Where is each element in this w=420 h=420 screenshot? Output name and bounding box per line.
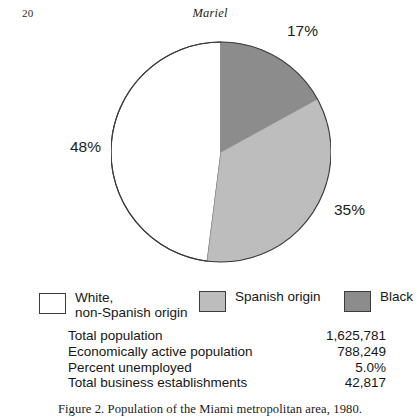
stats-value-percent-unemployed: 5.0% (355, 360, 386, 376)
pie-value-label-white-non-spanish: 48% (70, 138, 101, 156)
stats-label-total-population: Total population (68, 328, 163, 344)
pie-slice-white-non-spanish[interactable] (111, 42, 221, 261)
running-title: Mariel (0, 6, 420, 21)
legend-swatch-white-non-spanish (39, 293, 66, 314)
legend-label-spanish-origin: Spanish origin (235, 288, 321, 305)
pie-value-label-black: 17% (287, 22, 318, 40)
chart-legend: White, non-Spanish origin Spanish origin… (0, 288, 420, 324)
pie-chart-svg (111, 41, 331, 263)
statistics-table: Total population 1,625,781 Economically … (68, 328, 386, 391)
legend-item-white-non-spanish[interactable]: White, non-Spanish origin (39, 290, 188, 320)
stats-value-total-business-establishments: 42,817 (345, 375, 386, 391)
legend-item-black[interactable]: Black (344, 288, 413, 312)
table-row: Economically active population 788,249 (68, 344, 386, 360)
legend-label-white-non-spanish: White, non-Spanish origin (75, 290, 188, 320)
stats-value-economically-active-population: 788,249 (337, 344, 386, 360)
legend-item-spanish-origin[interactable]: Spanish origin (199, 288, 321, 312)
table-row: Total business establishments 42,817 (68, 375, 386, 391)
legend-swatch-spanish-origin (199, 291, 226, 312)
table-row: Percent unemployed 5.0% (68, 360, 386, 376)
legend-label-black: Black (380, 288, 413, 305)
pie-chart: 17% 35% 48% (0, 28, 420, 276)
stats-label-total-business-establishments: Total business establishments (68, 375, 247, 391)
stats-label-percent-unemployed: Percent unemployed (68, 360, 192, 376)
stats-value-total-population: 1,625,781 (326, 328, 386, 344)
figure-caption: Figure 2. Population of the Miami metrop… (0, 402, 420, 417)
stats-label-economically-active-population: Economically active population (68, 344, 253, 360)
table-row: Total population 1,625,781 (68, 328, 386, 344)
pie-value-label-spanish-origin: 35% (334, 201, 365, 219)
legend-swatch-black (344, 291, 371, 312)
